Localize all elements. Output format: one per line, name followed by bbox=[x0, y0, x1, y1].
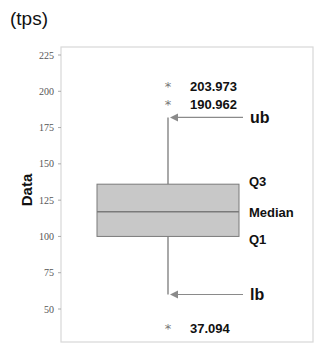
y-tick-label: 100 bbox=[39, 231, 54, 242]
outlier-label: 37.094 bbox=[190, 321, 231, 336]
outlier-label: 190.962 bbox=[190, 97, 237, 112]
q1-label: Q1 bbox=[249, 232, 266, 247]
y-tick-label: 225 bbox=[39, 50, 54, 61]
y-tick-label: 150 bbox=[39, 158, 54, 169]
lb-arrow-head bbox=[170, 290, 178, 298]
y-tick-label: 200 bbox=[39, 86, 54, 97]
y-tick-label: 175 bbox=[39, 122, 54, 133]
outlier-marker: * bbox=[165, 321, 172, 336]
outlier-marker: * bbox=[165, 79, 172, 94]
ub-arrow-head bbox=[170, 113, 178, 121]
lb-label: lb bbox=[250, 286, 264, 303]
y-tick-label: 50 bbox=[44, 304, 54, 315]
box-plot: 5075100125150175200225*203.973*190.962*3… bbox=[0, 0, 329, 359]
y-tick-label: 125 bbox=[39, 195, 54, 206]
iqr-box bbox=[97, 184, 239, 236]
median-label: Median bbox=[249, 205, 294, 220]
outlier-marker: * bbox=[165, 97, 172, 112]
y-tick-label: 75 bbox=[44, 267, 54, 278]
q3-label: Q3 bbox=[249, 174, 266, 189]
outlier-label: 203.973 bbox=[190, 79, 237, 94]
ub-label: ub bbox=[250, 109, 270, 126]
